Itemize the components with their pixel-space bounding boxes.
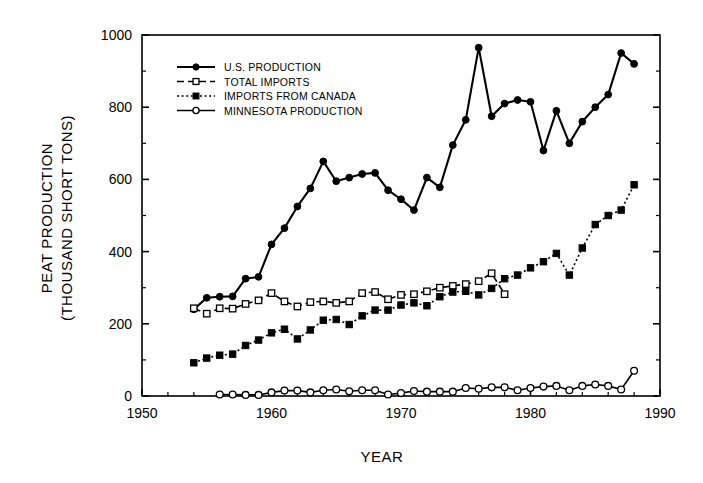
chart-figure: 19501960197019801990 02004006008001000 U… bbox=[0, 0, 703, 483]
y-axis-label-line2: (THOUSAND SHORT TONS) bbox=[58, 115, 75, 321]
x-tick-label: 1980 bbox=[515, 405, 546, 421]
legend-label: MINNESOTA PRODUCTION bbox=[224, 105, 363, 117]
x-tick-label: 1950 bbox=[126, 405, 157, 421]
y-tick-label: 800 bbox=[109, 99, 133, 115]
legend-label: TOTAL IMPORTS bbox=[224, 76, 310, 88]
y-tick-label: 600 bbox=[109, 171, 133, 187]
y-tick-label: 0 bbox=[124, 388, 132, 404]
x-tick-label: 1970 bbox=[385, 405, 416, 421]
y-axis-label-line1: PEAT PRODUCTION bbox=[38, 143, 55, 293]
peat-production-line-chart: 19501960197019801990 02004006008001000 U… bbox=[0, 0, 703, 483]
y-tick-label: 200 bbox=[109, 316, 133, 332]
legend-label: U.S. PRODUCTION bbox=[224, 61, 321, 73]
x-tick-label: 1960 bbox=[256, 405, 287, 421]
y-tick-label: 400 bbox=[109, 244, 133, 260]
x-axis-label: YEAR bbox=[361, 448, 404, 465]
x-tick-label: 1990 bbox=[644, 405, 675, 421]
legend-label: IMPORTS FROM CANADA bbox=[224, 90, 356, 102]
y-tick-label: 1000 bbox=[101, 27, 132, 43]
chart-background bbox=[0, 0, 703, 483]
